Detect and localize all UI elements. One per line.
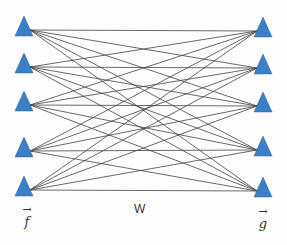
weights-label: W	[134, 202, 145, 216]
weight-edge	[30, 106, 257, 151]
weight-edge	[30, 30, 257, 31]
weight-edge	[30, 151, 257, 191]
input-neuron-triangle-icon	[15, 137, 33, 157]
weight-edge	[30, 105, 257, 106]
output-neuron-triangle-icon	[254, 177, 272, 197]
weight-edge	[30, 150, 257, 190]
weight-edge	[30, 68, 257, 151]
weight-edge	[30, 190, 257, 191]
weight-edge	[30, 67, 257, 150]
output-neuron-triangle-icon	[254, 136, 272, 156]
input-neuron-triangle-icon	[15, 176, 33, 196]
weight-edge	[30, 150, 257, 151]
output-vector-label: → g	[253, 208, 273, 231]
vector-arrow-icon: →	[17, 206, 37, 214]
output-neuron-triangle-icon	[254, 17, 272, 37]
weight-edge	[30, 31, 257, 190]
input-neuron-triangle-icon	[15, 91, 33, 111]
input-neuron-triangle-icon	[15, 53, 33, 73]
input-vector-label: → f	[17, 206, 37, 229]
input-neuron-triangle-icon	[15, 16, 33, 36]
weight-edge	[30, 106, 257, 190]
weight-edge	[30, 105, 257, 150]
vector-arrow-icon: →	[253, 208, 273, 216]
output-neuron-triangle-icon	[254, 54, 272, 74]
weight-edge	[30, 30, 257, 150]
output-neuron-triangle-icon	[254, 92, 272, 112]
